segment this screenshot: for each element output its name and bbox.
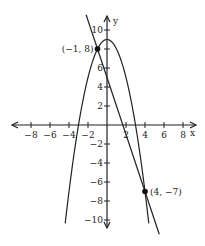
y-tick-label: 10 bbox=[92, 25, 104, 35]
x-tick-label: 8 bbox=[180, 130, 186, 140]
x-tick-label: 6 bbox=[161, 130, 167, 140]
graph-plot: −8−6−4−2246810642−2−4−6−8−10 (−1, 8)(4, … bbox=[0, 0, 205, 246]
y-tick-label: −8 bbox=[90, 196, 104, 206]
y-tick-label: −6 bbox=[90, 177, 104, 187]
y-axis-label: y bbox=[112, 16, 119, 26]
x-tick-label: −6 bbox=[43, 130, 57, 140]
y-tick-label: −4 bbox=[90, 158, 104, 168]
graph-svg: −8−6−4−2246810642−2−4−6−8−10 (−1, 8)(4, … bbox=[0, 0, 205, 246]
y-tick-label: −10 bbox=[84, 215, 103, 225]
y-tick-label: −2 bbox=[90, 139, 103, 149]
point-label: (−1, 8) bbox=[62, 44, 94, 54]
x-axis-label: x bbox=[190, 128, 195, 138]
x-tick-label: 4 bbox=[142, 130, 148, 140]
point-label: (4, −7) bbox=[150, 187, 182, 197]
y-tick-label: 2 bbox=[97, 101, 103, 111]
point-marker bbox=[142, 189, 148, 195]
x-tick-label: −8 bbox=[24, 130, 38, 140]
y-tick-label: 4 bbox=[97, 82, 103, 92]
x-tick-label: −4 bbox=[62, 130, 76, 140]
point-marker bbox=[95, 46, 101, 52]
